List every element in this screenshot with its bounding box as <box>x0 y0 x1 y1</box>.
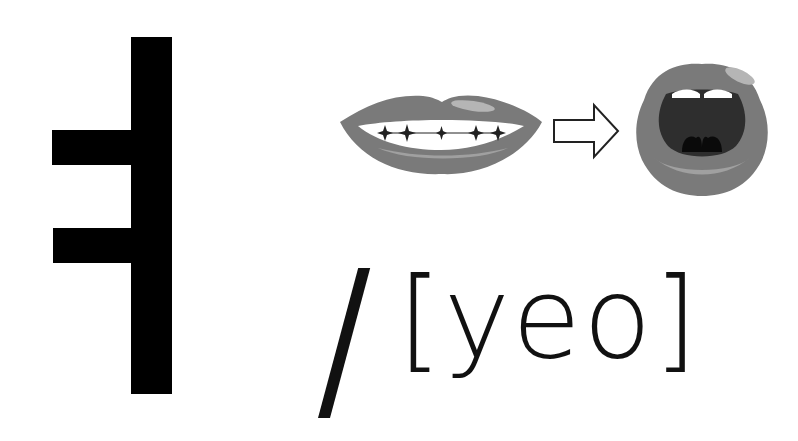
separator-slash <box>318 268 370 418</box>
glyph-vertical-stroke <box>131 37 172 394</box>
right-arrow-icon <box>552 102 622 160</box>
glyph-lower-stroke <box>53 228 137 263</box>
open-mouth-icon <box>632 60 772 200</box>
glyph-upper-stroke <box>52 130 137 165</box>
romanization-label: [yeo] <box>398 262 699 374</box>
closed-lips-icon <box>338 88 544 178</box>
hangul-yeo-glyph <box>0 0 200 441</box>
